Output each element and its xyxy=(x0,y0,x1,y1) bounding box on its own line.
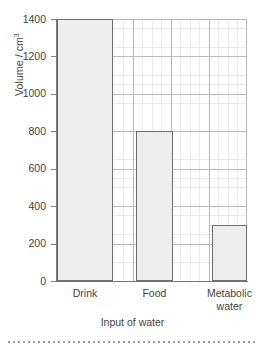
footer-dotted-divider xyxy=(8,341,257,343)
x-axis-category-label-line: water xyxy=(189,300,265,313)
bar xyxy=(136,131,173,281)
x-axis-line xyxy=(56,281,248,282)
y-axis-tick-label: 0 xyxy=(12,276,46,287)
gridline-vertical xyxy=(209,19,210,281)
plot-area xyxy=(57,19,247,281)
bar xyxy=(57,19,113,281)
y-axis-tick-label: 800 xyxy=(12,126,46,137)
x-axis-title: Input of water xyxy=(0,316,265,328)
x-axis-category-label: Drink xyxy=(45,287,125,300)
y-axis-tick-mark xyxy=(51,169,56,170)
x-axis-category-label: Metabolicwater xyxy=(189,287,265,313)
x-axis-category-label-line: Drink xyxy=(45,287,125,300)
x-axis-category-label-line: Metabolic xyxy=(189,287,265,300)
y-axis-tick-label: 1000 xyxy=(12,88,46,99)
y-axis-tick-mark xyxy=(51,19,56,20)
y-axis-tick-label: 1200 xyxy=(12,51,46,62)
y-axis-tick-mark xyxy=(51,206,56,207)
y-axis-tick-label: 600 xyxy=(12,163,46,174)
y-axis-tick-label: 200 xyxy=(12,238,46,249)
y-axis-tick-labels: 0200400600800100012001400 xyxy=(12,0,46,347)
y-axis-tick-mark xyxy=(51,131,56,132)
y-axis-tick-label: 1400 xyxy=(12,14,46,25)
y-axis-tick-mark xyxy=(51,244,56,245)
y-axis-tick-mark xyxy=(51,94,56,95)
bar xyxy=(212,225,247,281)
y-axis-tick-mark xyxy=(51,281,56,282)
gridline-vertical xyxy=(133,19,134,281)
bar-chart-figure: Volume / cm3 0200400600800100012001400 D… xyxy=(0,0,265,347)
y-axis-tick-mark xyxy=(51,56,56,57)
y-axis-tick-label: 400 xyxy=(12,201,46,212)
x-axis-category-label: Food xyxy=(114,287,194,300)
x-axis-category-label-line: Food xyxy=(114,287,194,300)
